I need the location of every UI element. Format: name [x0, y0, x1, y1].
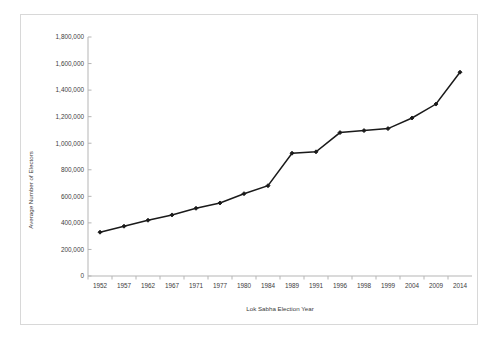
- y-axis-tick-label: 800,000: [61, 166, 85, 173]
- x-axis-tick-label: 2004: [405, 282, 420, 289]
- x-axis-tick-label: 1967: [165, 282, 180, 289]
- data-point-marker: [218, 201, 222, 205]
- x-axis-tick-label: 1971: [189, 282, 204, 289]
- data-point-marker: [242, 192, 246, 196]
- x-axis-tick-label: 1952: [93, 282, 108, 289]
- x-axis-tick-label: 2014: [453, 282, 468, 289]
- y-axis-tick-label: 0: [80, 272, 84, 279]
- x-axis-tick-label: 1962: [141, 282, 156, 289]
- y-axis-tick-label: 600,000: [61, 193, 85, 200]
- y-axis-title: Average Number of Electors: [27, 151, 34, 229]
- data-point-marker: [98, 230, 102, 234]
- y-axis-tick-label: 1,200,000: [56, 113, 85, 120]
- chart-figure: 0200,000400,000600,000800,0001,000,0001,…: [0, 0, 501, 344]
- line-chart: 0200,000400,000600,000800,0001,000,0001,…: [0, 0, 501, 344]
- y-axis-tick-label: 1,800,000: [56, 33, 85, 40]
- x-axis-title: Lok Sabha Election Year: [246, 305, 313, 312]
- x-axis-tick-label: 1980: [237, 282, 252, 289]
- x-axis-tick-label: 1991: [309, 282, 324, 289]
- y-axis-tick-label: 1,000,000: [56, 140, 85, 147]
- data-point-marker: [146, 218, 150, 222]
- data-point-marker: [194, 206, 198, 210]
- x-axis-tick-label: 1996: [333, 282, 348, 289]
- data-point-marker: [170, 213, 174, 217]
- y-axis-tick-label: 400,000: [61, 219, 85, 226]
- x-axis-tick-label: 1999: [381, 282, 396, 289]
- x-axis-tick-labels: 1952195719621967197119771980198419891991…: [93, 282, 468, 289]
- x-axis-tick-label: 1977: [213, 282, 228, 289]
- x-axis-tick-label: 1984: [261, 282, 276, 289]
- y-axis-tick-marks: [88, 37, 92, 276]
- data-point-marker: [362, 129, 366, 133]
- x-axis-tick-label: 2009: [429, 282, 444, 289]
- x-axis-tick-label: 1957: [117, 282, 132, 289]
- x-axis-tick-label: 1998: [357, 282, 372, 289]
- y-axis-tick-label: 1,600,000: [56, 60, 85, 67]
- data-point-marker: [122, 224, 126, 228]
- y-axis-tick-label: 1,400,000: [56, 86, 85, 93]
- x-axis-tick-label: 1989: [285, 282, 300, 289]
- data-series-line: [100, 72, 460, 232]
- data-point-markers: [98, 70, 462, 234]
- y-axis-tick-label: 200,000: [61, 246, 85, 253]
- y-axis-tick-labels: 0200,000400,000600,000800,0001,000,0001,…: [56, 33, 85, 279]
- x-axis-tick-marks: [88, 276, 448, 280]
